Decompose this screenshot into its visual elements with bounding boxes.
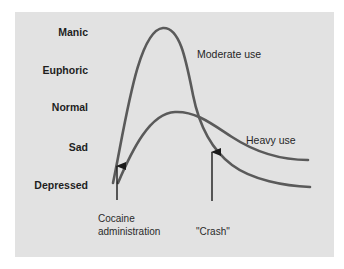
moderate-use-label: Moderate use bbox=[197, 48, 261, 60]
cocaine-label-line1: Cocaine bbox=[98, 212, 160, 225]
crash-label: "Crash" bbox=[196, 225, 230, 238]
heavy-use-curve bbox=[118, 112, 308, 183]
cocaine-label-line2: administration bbox=[98, 225, 160, 238]
heavy-use-label: Heavy use bbox=[246, 134, 296, 146]
cocaine-administration-label: Cocaine administration bbox=[98, 212, 160, 238]
